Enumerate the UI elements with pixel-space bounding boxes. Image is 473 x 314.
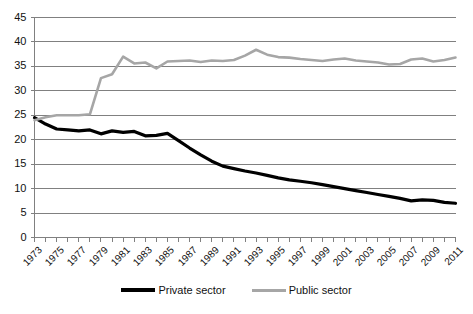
- y-axis-tick-label: 40: [1, 36, 27, 47]
- y-axis-tick-label: 45: [1, 12, 27, 23]
- y-axis-tick-label: 25: [1, 109, 27, 120]
- legend-item-label: Private sector: [158, 284, 225, 296]
- y-axis-tick-label: 35: [1, 60, 27, 71]
- y-axis-tick-label: 10: [1, 183, 27, 194]
- y-axis-tick-label: 0: [1, 232, 27, 243]
- y-axis-tick-label: 30: [1, 85, 27, 96]
- chart-legend: Private sectorPublic sector: [0, 284, 473, 296]
- series-group: [35, 50, 456, 204]
- series-line-public-sector: [35, 50, 456, 120]
- legend-item-label: Public sector: [289, 284, 352, 296]
- y-axis-tick-label: 5: [1, 207, 27, 218]
- y-axis-tick-label: 20: [1, 134, 27, 145]
- y-axis-tick-label: 15: [1, 158, 27, 169]
- line-chart: 051015202530354045 197319751977197919811…: [0, 0, 473, 314]
- legend-item-private: Private sector: [121, 284, 225, 296]
- gridlines-group: [35, 18, 456, 238]
- legend-line-swatch-icon: [252, 289, 286, 292]
- ticks-group: [31, 18, 456, 242]
- legend-item-public: Public sector: [252, 284, 352, 296]
- axes-group: [35, 18, 456, 238]
- series-line-private-sector: [35, 118, 456, 204]
- legend-line-swatch-icon: [121, 288, 155, 292]
